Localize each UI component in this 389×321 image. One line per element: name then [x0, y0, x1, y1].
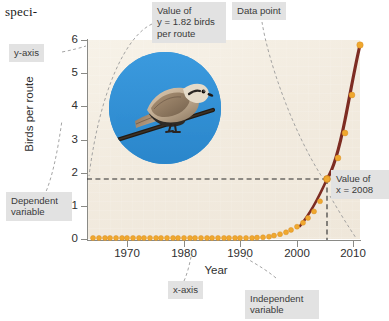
callout-x-axis: x-axis — [168, 281, 203, 299]
callout-value-of-x: Value of x = 2008 — [331, 170, 389, 199]
callout-dependent-variable: Dependent variable — [6, 192, 72, 221]
callout-y-axis: y-axis — [9, 44, 44, 62]
highlighted-data-point — [324, 176, 331, 183]
callout-independent-variable: Independent variable — [245, 290, 319, 319]
callout-value-of-y: Value of y = 1.82 birds per route — [152, 2, 226, 43]
data-points-baseline — [91, 235, 266, 241]
callout-data-point: Data point — [232, 2, 286, 20]
highlight-curve-segment — [327, 45, 360, 179]
curve-lead-in — [300, 179, 327, 226]
